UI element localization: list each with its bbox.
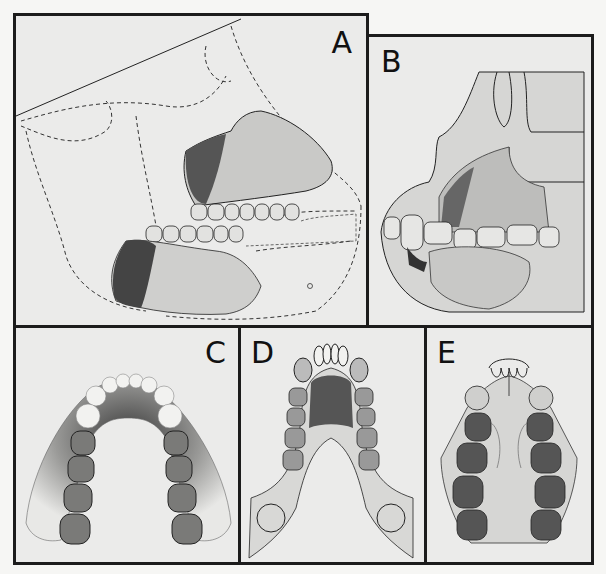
panel-label-d: D [251,338,274,368]
upper-teeth [191,204,299,220]
panel-e: E [424,325,594,565]
panel-label-e: E [437,338,456,368]
panel-b: B [366,34,594,328]
panel-label-a: A [331,28,352,58]
palate-shadow [309,376,353,429]
lower-teeth [146,226,243,242]
panel-label-b: B [381,47,402,77]
panel-c: C [13,325,241,565]
molars [60,431,202,544]
panel-a: A [13,13,369,328]
skull-lateral-illustration [16,16,366,325]
jaw-lateral-illustration [369,37,591,325]
panel-d: D [238,325,427,565]
panel-label-c: C [205,338,226,368]
